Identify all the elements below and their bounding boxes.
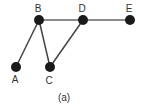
node-label-e: E: [126, 3, 133, 14]
node-c: [45, 62, 55, 72]
node-label-a: A: [12, 74, 19, 85]
node-d: [78, 15, 88, 25]
node-b: [34, 15, 44, 25]
node-label-d: D: [78, 3, 85, 14]
graph-diagram: A B C D E (a): [0, 0, 146, 104]
edge-b-c: [39, 20, 50, 67]
edge-b-a: [16, 20, 39, 67]
node-label-c: C: [45, 75, 52, 86]
labels: A B C D E (a): [12, 3, 133, 103]
edge-d-c: [50, 20, 83, 67]
figure-caption: (a): [58, 92, 70, 103]
edges: [16, 20, 130, 67]
nodes: [11, 15, 135, 72]
node-a: [11, 62, 21, 72]
node-label-b: B: [35, 3, 42, 14]
node-e: [125, 15, 135, 25]
